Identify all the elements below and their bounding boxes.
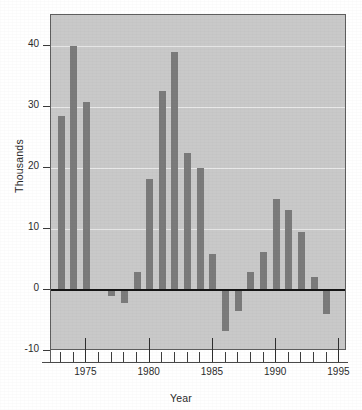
- y-axis-tick-label: 20: [0, 161, 39, 171]
- bar: [222, 290, 229, 332]
- x-axis-minor-tick: [300, 352, 301, 362]
- bar: [83, 102, 90, 290]
- x-axis-major-tick: [338, 338, 339, 362]
- x-axis-tick-label: 1990: [255, 366, 295, 377]
- x-axis-baseline: [42, 362, 348, 363]
- x-axis-tick-label: 1985: [192, 366, 232, 377]
- x-axis-major-tick: [85, 338, 86, 362]
- bar: [298, 232, 305, 289]
- y-axis-tick-label: -10: [0, 344, 39, 354]
- bar: [285, 210, 292, 289]
- bar: [247, 272, 254, 290]
- bar: [273, 199, 280, 289]
- bar: [209, 254, 216, 290]
- y-axis-tick-label: 40: [0, 39, 39, 49]
- gridline: [51, 46, 345, 47]
- bar: [260, 252, 267, 290]
- x-axis-title: Year: [0, 392, 362, 404]
- y-axis-tick: [43, 228, 50, 229]
- y-axis-tick-label: 30: [0, 100, 39, 110]
- y-axis-tick: [43, 167, 50, 168]
- x-axis-minor-tick: [250, 352, 251, 362]
- x-axis-minor-tick: [123, 352, 124, 362]
- x-axis-tick-label: 1980: [129, 366, 169, 377]
- x-axis-minor-tick: [161, 352, 162, 362]
- x-axis-tick-label: 1975: [65, 366, 105, 377]
- bar: [134, 272, 141, 290]
- x-axis-minor-tick: [263, 352, 264, 362]
- y-axis-tick-label: 0: [0, 283, 39, 293]
- zero-line: [51, 289, 345, 291]
- bar: [235, 290, 242, 311]
- x-axis-minor-tick: [98, 352, 99, 362]
- x-axis-minor-tick: [199, 352, 200, 362]
- x-axis-minor-tick: [237, 352, 238, 362]
- bar: [70, 46, 77, 290]
- x-axis-major-tick: [275, 338, 276, 362]
- bar-chart: Thousands Year -10010203040 197519801985…: [0, 0, 362, 410]
- x-axis-minor-tick: [313, 352, 314, 362]
- y-axis-line: [50, 14, 51, 362]
- bar: [171, 52, 178, 290]
- gridline: [51, 107, 345, 108]
- x-axis-minor-tick: [187, 352, 188, 362]
- bar: [184, 153, 191, 290]
- plot-area: [50, 14, 346, 350]
- x-axis-minor-tick: [288, 352, 289, 362]
- bar: [323, 290, 330, 314]
- y-axis-tick-label: 10: [0, 222, 39, 232]
- bar: [58, 116, 65, 289]
- y-axis-tick: [43, 350, 50, 351]
- bar: [121, 290, 128, 303]
- x-axis-major-tick: [212, 338, 213, 362]
- bar: [197, 168, 204, 290]
- x-axis-major-tick: [149, 338, 150, 362]
- bar: [146, 179, 153, 290]
- bar: [159, 91, 166, 290]
- y-axis-tick: [43, 45, 50, 46]
- x-axis-minor-tick: [111, 352, 112, 362]
- x-axis-minor-tick: [225, 352, 226, 362]
- y-axis-tick: [43, 289, 50, 290]
- x-axis-minor-tick: [326, 352, 327, 362]
- x-axis-tick-label: 1995: [318, 366, 358, 377]
- x-axis-minor-tick: [136, 352, 137, 362]
- x-axis-minor-tick: [73, 352, 74, 362]
- x-axis-minor-tick: [174, 352, 175, 362]
- x-axis-minor-tick: [60, 352, 61, 362]
- y-axis-tick: [43, 106, 50, 107]
